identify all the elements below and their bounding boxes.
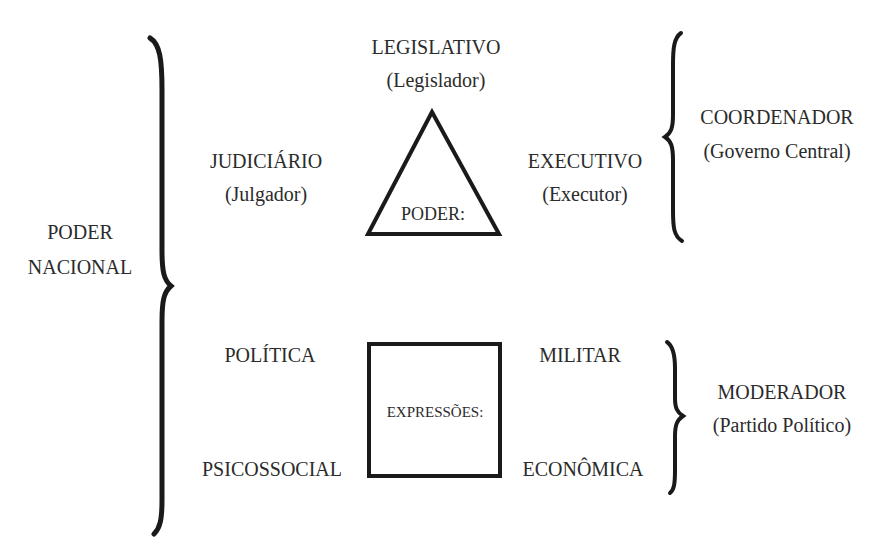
coordenador-title: COORDENADOR <box>700 105 853 129</box>
upper-right-curly-brace <box>665 33 682 241</box>
root-label-line1: PODER <box>47 220 113 244</box>
psicossocial-label: PSICOSSOCIAL <box>202 457 342 481</box>
politica-label: POLÍTICA <box>224 343 315 367</box>
legislativo-title: LEGISLATIVO <box>372 35 501 59</box>
moderador-title: MODERADOR <box>718 380 847 404</box>
judiciario-title: JUDICIÁRIO <box>210 149 322 173</box>
root-label-line2: NACIONAL <box>28 255 132 279</box>
poder-center-label: PODER: <box>401 202 465 226</box>
coordenador-subtitle: (Governo Central) <box>703 139 850 163</box>
executivo-subtitle: (Executor) <box>542 182 628 206</box>
lower-right-curly-brace <box>667 342 683 493</box>
executivo-title: EXECUTIVO <box>528 149 642 173</box>
expressoes-center-label: EXPRESSÕES: <box>387 400 484 424</box>
legislativo-subtitle: (Legislador) <box>387 68 486 92</box>
left-curly-brace <box>150 38 171 534</box>
judiciario-subtitle: (Julgador) <box>225 182 307 206</box>
militar-label: MILITAR <box>539 343 621 367</box>
economica-label: ECONÔMICA <box>522 457 643 481</box>
moderador-subtitle: (Partido Político) <box>713 413 851 437</box>
